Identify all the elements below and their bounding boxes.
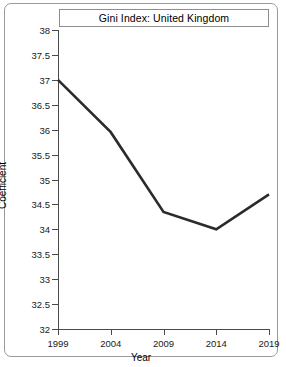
y-tick (52, 55, 58, 56)
y-tick (52, 30, 58, 31)
x-tick-label: 2014 (206, 338, 227, 349)
y-tick-label: 35 (39, 174, 50, 185)
x-axis-label: Year (5, 352, 277, 363)
y-tick (52, 204, 58, 205)
x-tick (58, 329, 59, 335)
x-tick-label: 1999 (47, 338, 68, 349)
y-tick-label: 34.5 (32, 199, 51, 210)
y-tick-label: 34 (39, 224, 50, 235)
y-tick (52, 279, 58, 280)
y-tick-label: 33.5 (32, 249, 51, 260)
x-tick (269, 329, 270, 335)
y-tick-label: 32 (39, 324, 50, 335)
y-axis-line (58, 30, 59, 330)
y-tick (52, 229, 58, 230)
chart-frame: Gini Index: United Kingdom 3232.53333.53… (4, 3, 278, 357)
y-tick-label: 37 (39, 74, 50, 85)
y-tick-label: 32.5 (32, 299, 51, 310)
y-tick-label: 33 (39, 274, 50, 285)
y-tick (52, 80, 58, 81)
y-tick (52, 130, 58, 131)
x-tick-label: 2009 (153, 338, 174, 349)
data-series-line (58, 80, 269, 230)
y-tick (52, 180, 58, 181)
y-tick-label: 37.5 (32, 49, 51, 60)
y-tick (52, 304, 58, 305)
x-tick (216, 329, 217, 335)
y-tick-label: 36.5 (32, 99, 51, 110)
y-tick-label: 38 (39, 25, 50, 36)
y-tick (52, 105, 58, 106)
y-tick-label: 35.5 (32, 149, 51, 160)
y-tick (52, 254, 58, 255)
x-tick (164, 329, 165, 335)
chart-title-box: Gini Index: United Kingdom (59, 9, 269, 27)
x-tick-label: 2004 (100, 338, 121, 349)
y-tick-label: 36 (39, 124, 50, 135)
x-tick-label: 2019 (258, 338, 279, 349)
x-tick (111, 329, 112, 335)
y-tick (52, 155, 58, 156)
y-axis-label: Coefficient (0, 162, 8, 209)
page-title: Gini Index: United Kingdom (99, 12, 229, 24)
